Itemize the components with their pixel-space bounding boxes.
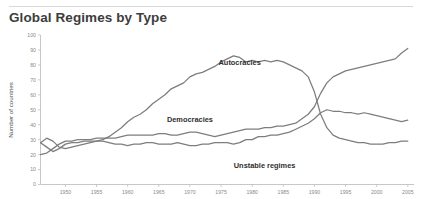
x-tick-label: 1995 — [340, 189, 352, 195]
x-tick-label: 1975 — [215, 189, 227, 195]
y-tick-labels: 0102030405060708090100 — [27, 32, 36, 188]
chart-svg: 0102030405060708090100 Number of countri… — [0, 26, 422, 199]
x-tick-label: 1980 — [246, 189, 258, 195]
x-tick-label: 2005 — [402, 189, 414, 195]
y-axis: 0102030405060708090100 Number of countri… — [7, 32, 41, 188]
x-tick-label: 1990 — [309, 189, 321, 195]
series-annotation-unstable-regimes: Unstable regimes — [234, 161, 296, 170]
series-annotation-autocracies: Autocracies — [219, 58, 261, 67]
y-tick-label: 0 — [33, 181, 36, 187]
x-tick-label: 1950 — [60, 189, 72, 195]
y-tick-label: 100 — [27, 32, 36, 38]
x-tick-label: 1960 — [122, 189, 134, 195]
header-divider — [9, 6, 413, 7]
series-annotation-democracies: Democracies — [167, 115, 213, 124]
y-tick-label: 10 — [30, 166, 36, 172]
x-tick-label: 2000 — [371, 189, 383, 195]
y-tick-label: 80 — [30, 62, 36, 68]
y-tick-label: 50 — [30, 107, 36, 113]
y-tick-label: 70 — [30, 77, 36, 83]
y-tick-label: 90 — [30, 47, 36, 53]
line-chart: 0102030405060708090100 Number of countri… — [0, 26, 422, 199]
x-tick-label: 1985 — [278, 189, 290, 195]
series-annotations: AutocraciesDemocraciesUnstable regimes — [167, 58, 296, 170]
x-axis: 1950195519601965197019751980198519901995… — [41, 185, 415, 196]
y-axis-title: Number of countries — [7, 82, 14, 138]
x-tick-labels: 1950195519601965197019751980198519901995… — [60, 189, 414, 195]
series-line-unstable-regimes — [41, 110, 408, 152]
x-tick-label: 1965 — [153, 189, 165, 195]
page-title: Global Regimes by Type — [9, 10, 167, 25]
y-tick-label: 20 — [30, 152, 36, 158]
y-tick-label: 40 — [30, 122, 36, 128]
x-tick-label: 1970 — [184, 189, 196, 195]
y-tick-label: 60 — [30, 92, 36, 98]
x-tick-label: 1955 — [91, 189, 103, 195]
y-tick-label: 30 — [30, 137, 36, 143]
